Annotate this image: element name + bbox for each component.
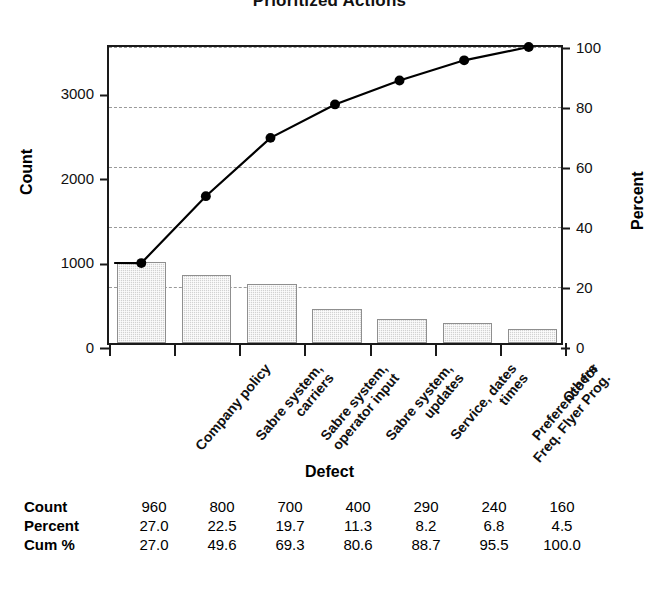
x-tick-mark bbox=[435, 343, 437, 356]
data-point-marker bbox=[330, 99, 340, 109]
tick-mark bbox=[100, 94, 109, 96]
tick-mark bbox=[561, 288, 570, 290]
table-row: Cum %27.049.669.380.688.795.5100.0 bbox=[24, 535, 596, 554]
tick-mark bbox=[561, 228, 570, 230]
x-tick-mark bbox=[109, 343, 111, 356]
data-point-marker bbox=[395, 76, 405, 86]
table-row-header: Cum % bbox=[24, 535, 120, 554]
data-point-marker bbox=[524, 42, 534, 52]
pareto-chart-figure: Prioritized Actions 3000200010000 100806… bbox=[0, 0, 659, 593]
table-row-header: Percent bbox=[24, 516, 120, 535]
x-tick-mark bbox=[565, 343, 567, 356]
cumulative-line-path bbox=[114, 47, 529, 263]
y-tick-right-label: 60 bbox=[576, 159, 593, 176]
table-row-header: Count bbox=[24, 497, 120, 516]
y-tick-right-label: 40 bbox=[576, 219, 593, 236]
table-cell: 27.0 bbox=[120, 516, 188, 535]
table-cell: 27.0 bbox=[120, 535, 188, 554]
y-tick-left-label: 0 bbox=[86, 339, 94, 356]
table-row: Count960800700400290240160 bbox=[24, 497, 596, 516]
table-cell: 49.6 bbox=[188, 535, 256, 554]
tick-mark bbox=[100, 348, 109, 350]
table-cell: 22.5 bbox=[188, 516, 256, 535]
data-point-marker bbox=[136, 258, 146, 268]
chart-title: Prioritized Actions bbox=[0, 0, 659, 11]
tick-mark bbox=[100, 263, 109, 265]
table-cell: 11.3 bbox=[324, 516, 392, 535]
y-tick-left-label: 2000 bbox=[61, 169, 94, 186]
y-tick-left: 0 bbox=[86, 339, 109, 356]
y-tick-left: 1000 bbox=[61, 254, 109, 271]
y-tick-right: 80 bbox=[561, 99, 593, 116]
tick-mark bbox=[100, 179, 109, 181]
table-cell: 8.2 bbox=[392, 516, 460, 535]
data-point-marker bbox=[266, 133, 276, 143]
table-cell: 240 bbox=[460, 497, 528, 516]
table-cell: 6.8 bbox=[460, 516, 528, 535]
y-tick-right-label: 100 bbox=[576, 39, 601, 56]
data-table: Count960800700400290240160Percent27.022.… bbox=[24, 497, 596, 554]
table-cell: 80.6 bbox=[324, 535, 392, 554]
table-cell: 400 bbox=[324, 497, 392, 516]
y-tick-right-label: 0 bbox=[576, 339, 584, 356]
cumulative-percent-line bbox=[109, 47, 561, 343]
y-tick-left: 3000 bbox=[61, 85, 109, 102]
plot-area: 3000200010000 100806040200 bbox=[107, 45, 563, 345]
x-tick-mark bbox=[370, 343, 372, 356]
summary-data-table: Count960800700400290240160Percent27.022.… bbox=[0, 497, 659, 554]
table-cell: 160 bbox=[528, 497, 596, 516]
table-cell: 960 bbox=[120, 497, 188, 516]
y-tick-right: 100 bbox=[561, 39, 601, 56]
table-cell: 4.5 bbox=[528, 516, 596, 535]
y-tick-right: 40 bbox=[561, 219, 593, 236]
y-axis-right-title: Percent bbox=[629, 171, 647, 230]
x-tick-mark bbox=[239, 343, 241, 356]
x-tick-mark bbox=[174, 343, 176, 356]
table-cell: 95.5 bbox=[460, 535, 528, 554]
x-tick-mark bbox=[500, 343, 502, 356]
tick-mark bbox=[561, 168, 570, 170]
y-tick-right-label: 20 bbox=[576, 279, 593, 296]
y-tick-left: 2000 bbox=[61, 169, 109, 186]
tick-mark bbox=[561, 108, 570, 110]
table-cell: 69.3 bbox=[256, 535, 324, 554]
y-tick-left-label: 1000 bbox=[61, 254, 94, 271]
table-cell: 19.7 bbox=[256, 516, 324, 535]
y-tick-right: 20 bbox=[561, 279, 593, 296]
table-cell: 700 bbox=[256, 497, 324, 516]
tick-mark bbox=[561, 48, 570, 50]
y-axis-left-title: Count bbox=[18, 149, 36, 195]
data-point-marker bbox=[201, 191, 211, 201]
x-tick-mark bbox=[304, 343, 306, 356]
data-point-marker bbox=[459, 55, 469, 65]
table-cell: 290 bbox=[392, 497, 460, 516]
x-category-label: Preference for Freq. Flyer Prog. bbox=[519, 361, 613, 466]
table-cell: 800 bbox=[188, 497, 256, 516]
table-row: Percent27.022.519.711.38.26.84.5 bbox=[24, 516, 596, 535]
y-tick-right-label: 80 bbox=[576, 99, 593, 116]
y-tick-left-label: 3000 bbox=[61, 85, 94, 102]
x-axis-title: Defect bbox=[0, 463, 659, 481]
table-cell: 88.7 bbox=[392, 535, 460, 554]
y-tick-right: 60 bbox=[561, 159, 593, 176]
table-cell: 100.0 bbox=[528, 535, 596, 554]
